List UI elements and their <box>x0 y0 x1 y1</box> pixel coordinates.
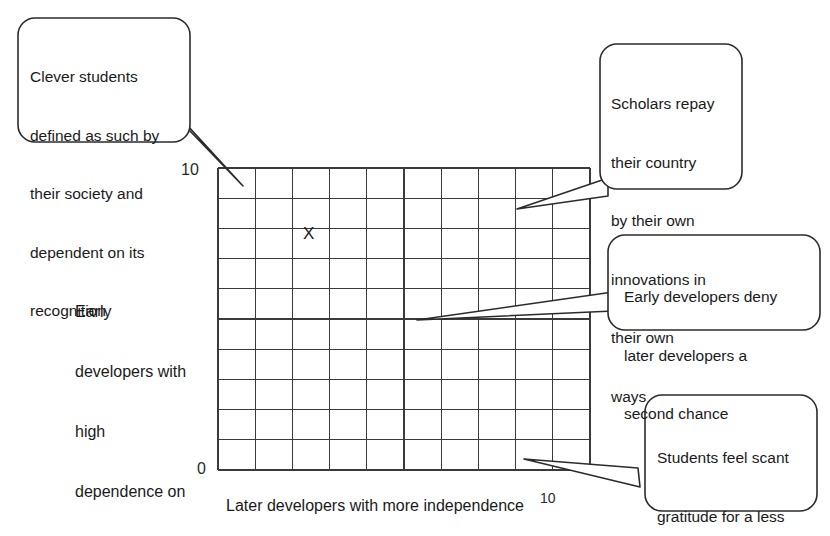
callout-line: dependent on its <box>30 243 186 263</box>
y-axis-label-line: developers with <box>75 362 195 382</box>
callout-line: defined as such by <box>30 126 186 146</box>
callout-line: Students feel scant <box>657 448 819 468</box>
callout-line: Clever students <box>30 67 186 87</box>
y-axis-label: Early developers with high dependence on… <box>75 262 195 536</box>
callout-tail-scholars-repay <box>517 178 608 209</box>
y-axis-label-line: Early <box>75 302 195 322</box>
callout-line: by their own <box>611 211 737 231</box>
y-axis-label-line: dependence on <box>75 482 195 502</box>
y-axis-label-line: high <box>75 422 195 442</box>
x-axis-label: Later developers with more independence <box>226 496 524 516</box>
callout-tail-students-feel-scant <box>524 459 640 487</box>
callout-line: their society and <box>30 184 186 204</box>
y-axis-min-tick: 0 <box>197 459 206 478</box>
callout-line: Scholars repay <box>611 94 737 114</box>
data-point-marker[interactable]: X <box>303 224 314 243</box>
x-axis-max-tick: 10 <box>540 489 556 508</box>
plot-grid <box>218 168 590 470</box>
callout-text-students-feel-scant: Students feel scant gratitude for a less… <box>657 409 819 536</box>
callout-line: gratitude for a less <box>657 507 819 527</box>
diagram-canvas: Clever students defined as such by their… <box>0 0 830 536</box>
callout-line: later developers a <box>624 346 820 366</box>
y-axis-max-tick: 10 <box>181 160 199 179</box>
callout-line: their country <box>611 153 737 173</box>
callout-line: Early developers deny <box>624 287 820 307</box>
